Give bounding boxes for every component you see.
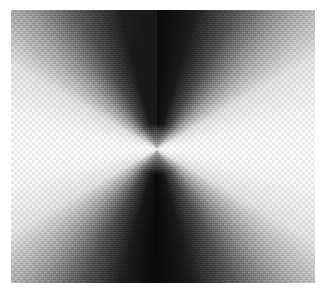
figure-page: [0, 0, 326, 294]
angular-gradient-field: [11, 10, 315, 283]
figure-image-frame: [11, 10, 315, 283]
